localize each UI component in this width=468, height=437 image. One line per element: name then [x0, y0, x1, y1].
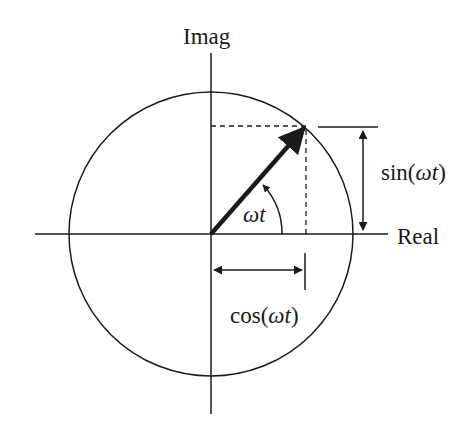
real-axis-label: Real	[397, 224, 439, 249]
imag-axis-label: Imag	[183, 24, 231, 49]
phasor-diagram: Imag Real ωt sin(ωt) cos(ωt)	[0, 0, 468, 437]
angle-label: ωt	[243, 202, 266, 227]
cos-label: cos(ωt)	[230, 303, 299, 328]
angle-arc	[263, 185, 282, 234]
sin-label: sin(ωt)	[381, 160, 446, 185]
